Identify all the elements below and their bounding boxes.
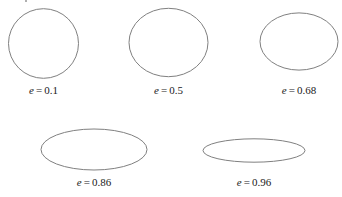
ellipse-label-4: e=0.86 xyxy=(50,177,138,188)
ellipse-label-3: e=0.68 xyxy=(255,85,342,96)
equals-sign-5: = xyxy=(242,176,252,188)
equals-sign-2: = xyxy=(159,84,169,96)
ellipse-eccentricity-figure: e=0.1 e=0.5 e=0.68 e=0.86 e=0.96 xyxy=(0,0,342,197)
eccentricity-value-2: 0.5 xyxy=(169,84,183,96)
equals-sign-3: = xyxy=(287,84,297,96)
ellipse-label-5: e=0.96 xyxy=(210,177,298,188)
ellipse-label-1: e=0.1 xyxy=(0,85,87,96)
ellipse-outline-5 xyxy=(203,139,305,162)
eccentricity-value-1: 0.1 xyxy=(44,84,58,96)
ellipse-label-2: e=0.5 xyxy=(125,85,212,96)
eccentricity-value-3: 0.68 xyxy=(297,84,316,96)
eccentricity-value-5: 0.96 xyxy=(252,176,271,188)
equals-sign-1: = xyxy=(34,84,44,96)
ellipse-shape-3 xyxy=(0,0,342,90)
eccentricity-symbol-3: e xyxy=(282,84,287,96)
ellipse-outline-3 xyxy=(260,13,338,70)
eccentricity-symbol-5: e xyxy=(237,176,242,188)
ellipse-svg-3 xyxy=(0,0,342,90)
equals-sign-4: = xyxy=(82,176,92,188)
eccentricity-symbol-4: e xyxy=(77,176,82,188)
eccentricity-value-4: 0.86 xyxy=(92,176,111,188)
